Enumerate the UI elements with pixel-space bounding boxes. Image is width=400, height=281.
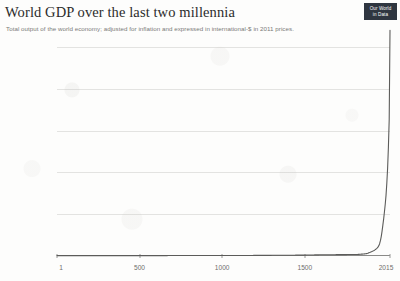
page-title: World GDP over the last two millennia <box>5 4 235 21</box>
gdp-line-path <box>57 30 390 255</box>
x-axis-tick-label: 1 <box>59 264 63 271</box>
plot-area: $0$20 trillion$40 trillion$60 trillion$8… <box>57 47 390 256</box>
chart-container: World GDP over the last two millennia To… <box>0 0 400 281</box>
x-axis-tick-label: 1000 <box>215 264 230 271</box>
our-world-in-data-logo[interactable]: Our World in Data <box>364 3 397 20</box>
logo-line-2: in Data <box>364 12 397 18</box>
x-axis-tick-label: 2015 <box>379 264 394 271</box>
gdp-line-series <box>57 40 390 256</box>
x-axis-tick-label: 500 <box>134 264 145 271</box>
x-axis-tick-label: 1500 <box>298 264 313 271</box>
chart-subtitle: Total output of the world economy; adjus… <box>6 25 294 32</box>
